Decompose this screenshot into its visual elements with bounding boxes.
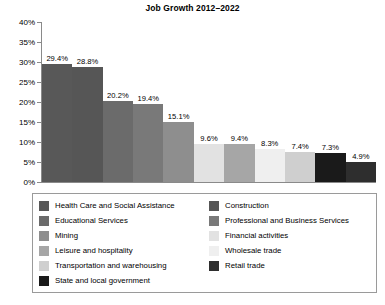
page-title: Job Growth 2012–2022: [0, 2, 385, 14]
chart-screenshot: Job Growth 2012–2022 40%35%30%25%20%15%1…: [0, 0, 385, 305]
legend-color-swatch: [39, 231, 49, 241]
legend-item: Professional and Business Services: [209, 213, 384, 228]
bar-value-label: 8.3%: [261, 139, 278, 148]
bar-value-label: 7.4%: [291, 142, 308, 151]
y-axis-label: 25%: [19, 78, 35, 87]
legend-color-swatch: [39, 201, 49, 211]
plot-area: 40%35%30%25%20%15%10%5%0% 29.4%28.8%20.2…: [41, 22, 376, 182]
legend-item: Financial activities: [209, 228, 384, 243]
bar: 15.1%: [163, 122, 193, 182]
bar: 9.6%: [194, 144, 224, 182]
tick-mark: [37, 102, 41, 103]
tick-mark: [37, 22, 41, 23]
y-axis-label: 30%: [19, 58, 35, 67]
tick-mark: [37, 142, 41, 143]
tick-mark: [37, 162, 41, 163]
legend-column-left: Health Care and Social AssistanceEducati…: [39, 198, 219, 288]
bar-fill: [224, 144, 254, 182]
legend-item: Educational Services: [39, 213, 219, 228]
legend-item: Mining: [39, 228, 219, 243]
bar-fill: [255, 149, 285, 182]
bar: 7.3%: [315, 153, 345, 182]
bar: 28.8%: [72, 67, 102, 182]
legend-color-swatch: [209, 261, 219, 271]
legend-item-label: State and local government: [55, 276, 150, 285]
tick-mark: [37, 122, 41, 123]
chart-legend: Health Care and Social AssistanceEducati…: [32, 193, 377, 293]
legend-column-right: ConstructionProfessional and Business Se…: [209, 198, 384, 273]
bar-fill: [133, 104, 163, 182]
legend-item-label: Transportation and warehousing: [55, 261, 167, 270]
bar-value-label: 29.4%: [46, 54, 68, 63]
legend-color-swatch: [39, 246, 49, 256]
x-axis-line: [41, 182, 376, 183]
y-axis-label: 10%: [19, 138, 35, 147]
y-axis-label: 20%: [19, 98, 35, 107]
bar: 8.3%: [255, 149, 285, 182]
tick-mark: [37, 82, 41, 83]
bar-value-label: 28.8%: [77, 57, 99, 66]
bar-value-label: 9.4%: [231, 134, 248, 143]
y-axis-label: 5%: [23, 158, 35, 167]
legend-item-label: Health Care and Social Assistance: [55, 201, 175, 210]
legend-item: Leisure and hospitality: [39, 243, 219, 258]
bar-fill: [194, 144, 224, 182]
bar-value-label: 4.9%: [352, 152, 369, 161]
bar: 9.4%: [224, 144, 254, 182]
legend-item: Construction: [209, 198, 384, 213]
legend-item: Retail trade: [209, 258, 384, 273]
bar-fill: [72, 67, 102, 182]
tick-mark: [37, 62, 41, 63]
bar-series: 29.4%28.8%20.2%19.4%15.1%9.6%9.4%8.3%7.4…: [42, 22, 376, 182]
legend-item-label: Wholesale trade: [225, 246, 281, 255]
legend-color-swatch: [209, 231, 219, 241]
legend-item-label: Leisure and hospitality: [55, 246, 133, 255]
bar-value-label: 19.4%: [137, 94, 159, 103]
legend-item: Transportation and warehousing: [39, 258, 219, 273]
bar-value-label: 15.1%: [168, 112, 190, 121]
legend-color-swatch: [209, 246, 219, 256]
legend-item-label: Professional and Business Services: [225, 216, 349, 225]
legend-item-label: Retail trade: [225, 261, 265, 270]
bar-fill: [103, 101, 133, 182]
legend-color-swatch: [209, 216, 219, 226]
tick-mark: [37, 42, 41, 43]
legend-item: State and local government: [39, 273, 219, 288]
legend-item: Health Care and Social Assistance: [39, 198, 219, 213]
bar-fill: [315, 153, 345, 182]
tick-mark: [37, 182, 41, 183]
legend-color-swatch: [39, 261, 49, 271]
legend-color-swatch: [39, 216, 49, 226]
legend-item: Wholesale trade: [209, 243, 384, 258]
legend-color-swatch: [39, 276, 49, 286]
bar-fill: [42, 64, 72, 182]
legend-item-label: Educational Services: [55, 216, 128, 225]
y-axis-label: 15%: [19, 118, 35, 127]
bar: 29.4%: [42, 64, 72, 182]
y-axis-tick: 0%: [41, 182, 42, 183]
legend-item-label: Mining: [55, 231, 78, 240]
y-axis-label: 35%: [19, 38, 35, 47]
bar-value-label: 7.3%: [322, 143, 339, 152]
bar: 7.4%: [285, 152, 315, 182]
bar: 4.9%: [346, 162, 376, 182]
legend-item-label: Construction: [225, 201, 269, 210]
bar: 20.2%: [103, 101, 133, 182]
bar-fill: [285, 152, 315, 182]
legend-item-label: Financial activities: [225, 231, 288, 240]
bar-fill: [346, 162, 376, 182]
bar-value-label: 9.6%: [200, 134, 217, 143]
bar: 19.4%: [133, 104, 163, 182]
legend-color-swatch: [209, 201, 219, 211]
bar-fill: [163, 122, 193, 182]
y-axis-label: 0%: [23, 178, 35, 187]
bar-value-label: 20.2%: [107, 91, 129, 100]
y-axis-label: 40%: [19, 18, 35, 27]
